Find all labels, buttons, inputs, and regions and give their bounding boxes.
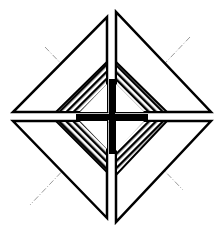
quadrant-bottom-left — [13, 121, 107, 218]
diamond-emblem-figure — [0, 0, 224, 232]
quadrant-top-left — [13, 17, 107, 112]
cross-horizontal-bar — [76, 114, 148, 120]
diamond-emblem-svg — [0, 0, 224, 232]
quadrant-bottom-right — [116, 121, 211, 222]
quadrant-top-right — [116, 12, 211, 112]
